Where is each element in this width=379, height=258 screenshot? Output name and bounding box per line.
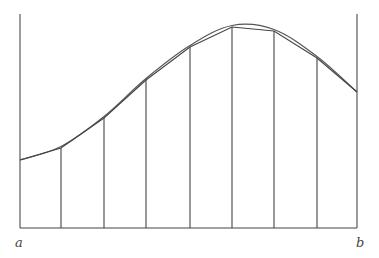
upper-limit-label: b [356,235,364,250]
function-curve [20,24,357,160]
lower-limit-label: a [15,235,23,250]
trapezoid-rule-diagram: a b [0,0,379,258]
ordinate-lines [61,27,317,228]
